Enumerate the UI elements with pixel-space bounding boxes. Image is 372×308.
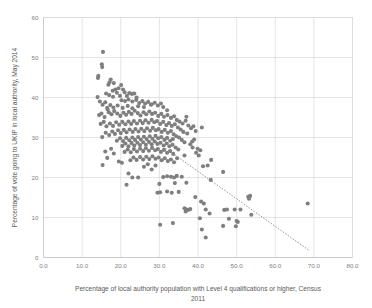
data-point [118, 114, 122, 118]
data-point [170, 143, 174, 147]
data-point [159, 101, 163, 105]
x-tick-label: 60.0 [269, 262, 282, 269]
data-point [115, 91, 119, 95]
data-point [104, 131, 108, 135]
data-point [180, 175, 184, 179]
data-point [132, 143, 136, 147]
x-tick-label: 40.0 [192, 262, 205, 269]
data-point [130, 112, 134, 116]
data-point [221, 170, 225, 174]
data-point [184, 209, 188, 213]
data-point [150, 142, 154, 146]
data-point [100, 135, 104, 139]
data-point [192, 137, 196, 141]
y-axis-title: Percentage of vote going to UKIP in loca… [11, 47, 19, 227]
chart-canvas: 0.010.020.030.040.050.060.070.080.0 0102… [0, 0, 372, 308]
data-point [107, 133, 111, 137]
x-axis-tick-labels: 0.010.020.030.040.050.060.070.080.0 [39, 262, 359, 269]
data-point [249, 213, 253, 217]
x-axis-title-line1: Percentage of local authority population… [75, 285, 322, 293]
data-point [128, 158, 132, 162]
data-point [118, 94, 122, 98]
data-point [182, 153, 186, 157]
data-point [124, 183, 128, 187]
data-point [135, 149, 139, 153]
data-point [130, 106, 134, 110]
data-point [169, 129, 173, 133]
data-point [102, 120, 106, 124]
data-point [130, 99, 134, 103]
y-tick-label: 30 [32, 134, 39, 141]
data-point [144, 112, 148, 116]
y-tick-label: 40 [32, 94, 39, 101]
data-point [193, 195, 197, 199]
data-point [123, 122, 127, 126]
data-point [170, 191, 174, 195]
data-point [126, 97, 130, 101]
data-point [181, 130, 185, 134]
data-point [111, 89, 115, 93]
data-point [158, 190, 162, 194]
data-point [98, 99, 102, 103]
data-point [156, 147, 160, 151]
data-point [185, 131, 189, 135]
data-point [201, 164, 205, 168]
data-point [234, 224, 238, 228]
data-point [206, 163, 210, 167]
data-point [126, 104, 130, 108]
data-point [109, 147, 113, 151]
data-point [171, 221, 175, 225]
data-point [147, 157, 151, 161]
data-point [150, 167, 154, 171]
data-point [227, 217, 231, 221]
data-point [184, 119, 188, 123]
data-point [155, 119, 159, 123]
data-point [173, 122, 177, 126]
data-point [163, 156, 167, 160]
data-point [157, 127, 161, 131]
data-point [200, 125, 204, 129]
data-point [158, 141, 162, 145]
data-point [101, 163, 105, 167]
data-point [117, 123, 121, 127]
data-point [194, 129, 198, 133]
data-point [111, 95, 115, 99]
data-point [200, 227, 204, 231]
data-point [116, 86, 120, 90]
data-point [161, 105, 165, 109]
data-point [102, 115, 106, 119]
data-point [153, 101, 157, 105]
y-tick-label: 0 [35, 254, 39, 261]
data-point [159, 135, 163, 139]
data-point [158, 223, 162, 227]
data-point [175, 156, 179, 160]
data-point [141, 157, 145, 161]
x-tick-label: 50.0 [231, 262, 244, 269]
data-point [103, 149, 107, 153]
data-point [204, 207, 208, 211]
data-point [162, 115, 166, 119]
data-point [248, 194, 252, 198]
data-point [123, 99, 127, 103]
data-point [105, 156, 109, 160]
data-point [123, 141, 127, 145]
x-tick-label: 20.0 [115, 262, 128, 269]
data-point [194, 151, 198, 155]
data-point [130, 175, 134, 179]
data-point [119, 98, 123, 102]
data-point [169, 157, 173, 161]
data-point [191, 124, 195, 128]
data-point [118, 136, 122, 140]
data-point [106, 83, 110, 87]
data-point [209, 158, 213, 162]
data-point [177, 190, 181, 194]
data-point [153, 163, 157, 167]
data-point [165, 136, 169, 140]
data-point [153, 111, 157, 115]
x-axis-title-line2: 2011 [191, 295, 206, 302]
data-point [238, 207, 242, 211]
data-point [138, 113, 142, 117]
data-point [101, 50, 105, 54]
data-point [161, 120, 165, 124]
data-point [236, 220, 240, 224]
